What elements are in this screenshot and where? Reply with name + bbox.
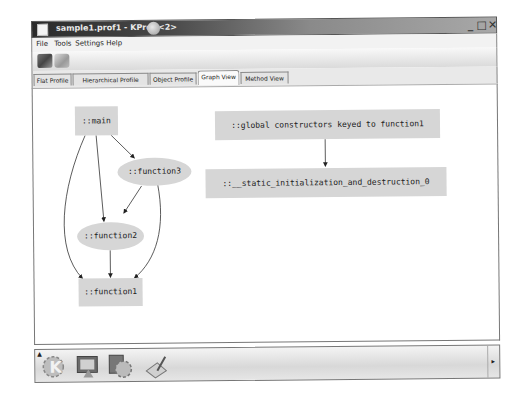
editor-icon[interactable] bbox=[143, 353, 169, 379]
printer-icon[interactable] bbox=[54, 54, 69, 68]
kde-panel: ▲ K ▸ bbox=[34, 345, 500, 383]
kprof-window: sample1.prof1 - KProf <2> _ □ ✕ File Too… bbox=[31, 17, 500, 385]
graph-view-canvas[interactable]: ::main ::function3 ::function2 ::functio… bbox=[32, 84, 500, 345]
desktop-icon[interactable] bbox=[75, 353, 101, 379]
close-button[interactable]: ✕ bbox=[487, 20, 498, 31]
kprof-app-icon bbox=[147, 22, 160, 35]
tab-method-view[interactable]: Method View bbox=[240, 72, 288, 84]
tab-hierarchical-profile[interactable]: Hierarchical Profile bbox=[73, 73, 149, 86]
graph-node-function1[interactable]: ::function1 bbox=[78, 278, 142, 307]
tab-graph-view[interactable]: Graph View bbox=[197, 70, 239, 85]
graph-node-global-constructors[interactable]: ::global constructors keyed to function1 bbox=[215, 109, 440, 140]
menu-tools[interactable]: Tools bbox=[54, 40, 71, 48]
kde-gear-icon[interactable]: K bbox=[40, 354, 66, 380]
menu-file[interactable]: File bbox=[36, 40, 48, 48]
minimize-button[interactable]: _ bbox=[465, 20, 476, 31]
panel-scroll-right-icon[interactable]: ▸ bbox=[487, 346, 498, 378]
graph-node-main[interactable]: ::main bbox=[75, 106, 118, 135]
graph-node-static-initialization[interactable]: ::__static_initialization_and_destructio… bbox=[205, 167, 446, 198]
maximize-button[interactable]: □ bbox=[476, 20, 487, 31]
app-document-icon[interactable] bbox=[37, 24, 48, 36]
tab-flat-profile[interactable]: Flat Profile bbox=[34, 74, 72, 86]
folder-open-icon[interactable] bbox=[37, 54, 52, 68]
tab-object-profile[interactable]: Object Profile bbox=[150, 72, 197, 84]
menu-help[interactable]: Help bbox=[106, 39, 122, 47]
svg-text:K: K bbox=[49, 358, 62, 377]
control-center-icon[interactable] bbox=[107, 353, 133, 379]
menu-settings[interactable]: Settings bbox=[75, 39, 104, 47]
